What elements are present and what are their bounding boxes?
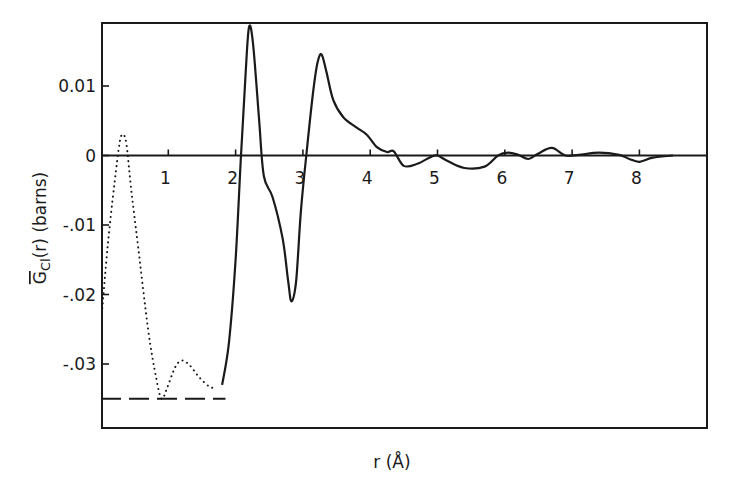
x-tick-label: 5 xyxy=(429,168,440,188)
y-tick-label: -.01 xyxy=(63,215,96,235)
chart: 123456780.010-.01-.02-.03 r (Å) GCl(r) (… xyxy=(0,0,730,487)
x-tick-label: 2 xyxy=(227,168,238,188)
axis-ticks: 123456780.010-.01-.02-.03 xyxy=(58,76,642,374)
y-axis-title-subscript: Cl xyxy=(38,258,53,271)
y-tick-label: -.02 xyxy=(63,285,96,305)
data-series xyxy=(101,25,673,399)
y-tick-label: 0 xyxy=(85,146,96,166)
x-tick-label: 4 xyxy=(362,168,373,188)
series-solid-line xyxy=(222,25,673,384)
x-tick-label: 6 xyxy=(496,168,507,188)
series-dotted-line xyxy=(102,134,215,399)
x-tick-label: 8 xyxy=(631,168,642,188)
y-axis-title-symbol: G xyxy=(30,271,50,284)
y-tick-label: -.03 xyxy=(63,354,96,374)
y-axis-title-rest: (r) (barns) xyxy=(30,172,50,258)
plot-border xyxy=(102,23,707,428)
x-tick-label: 1 xyxy=(160,168,171,188)
y-axis-title: GCl(r) (barns) xyxy=(30,172,53,284)
svg-text:GCl(r) (barns): GCl(r) (barns) xyxy=(30,172,53,284)
plot-frame xyxy=(102,23,707,428)
y-tick-label: 0.01 xyxy=(58,76,96,96)
x-tick-label: 7 xyxy=(564,168,575,188)
x-axis-title: r (Å) xyxy=(373,451,410,472)
